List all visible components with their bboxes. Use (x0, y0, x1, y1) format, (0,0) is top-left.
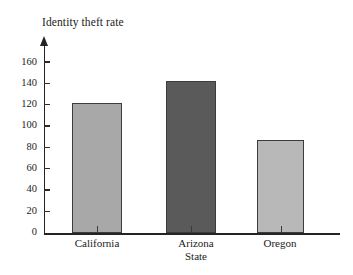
y-axis-tick-label: 140 (11, 78, 37, 89)
y-axis-line (44, 44, 45, 234)
x-axis-tick-mark (97, 226, 98, 233)
bar-california (72, 103, 122, 233)
y-axis-tick-mark (44, 61, 50, 62)
y-axis-tick-mark (44, 189, 50, 190)
y-axis-tick-label: 20 (11, 206, 37, 217)
y-axis-tick-label: 80 (11, 142, 37, 153)
y-axis-tick-label: 120 (11, 99, 37, 110)
y-axis-tick-label: 160 (11, 57, 37, 68)
x-axis-category-label: California (52, 237, 142, 250)
x-axis-tick-mark (281, 226, 282, 233)
x-axis-category-label: Arizona (151, 237, 241, 250)
y-axis-tick-mark (44, 104, 50, 105)
x-axis-label: State (151, 250, 241, 263)
y-axis-tick-mark (44, 168, 50, 169)
y-axis-tick-label: 40 (11, 184, 37, 195)
y-axis-tick-mark (44, 147, 50, 148)
plot-area: 020406080100120140160 CaliforniaArizonaO… (0, 0, 353, 275)
y-axis-tick-label: 100 (11, 120, 37, 131)
y-axis-tick-mark (44, 211, 50, 212)
x-axis-category-label: Oregon (235, 237, 325, 250)
x-axis-tick-mark (191, 226, 192, 233)
y-axis-tick-mark (44, 125, 50, 126)
arrow-up-icon (40, 36, 48, 46)
bar-chart-figure: Identity theft rate 02040608010012014016… (0, 0, 353, 275)
y-axis-tick-label: 0 (11, 227, 37, 238)
bar-arizona (166, 81, 216, 232)
bar-oregon (257, 140, 304, 233)
y-axis-tick-mark (44, 83, 50, 84)
y-axis-tick-label: 60 (11, 163, 37, 174)
